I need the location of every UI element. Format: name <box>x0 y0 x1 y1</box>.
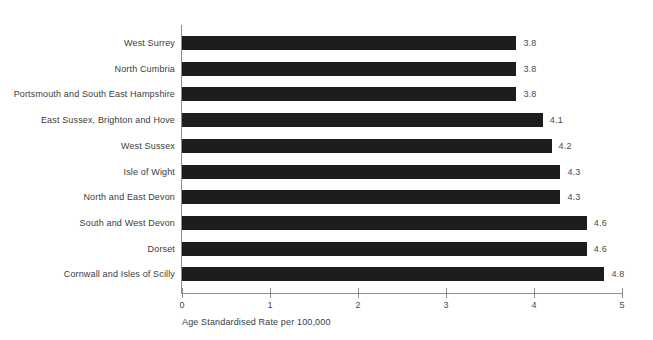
bar <box>182 242 587 256</box>
bar <box>182 216 587 230</box>
bar <box>182 165 560 179</box>
bar <box>182 190 560 204</box>
category-label: West Surrey <box>124 38 175 48</box>
bar-value-label: 3.8 <box>523 64 536 74</box>
x-axis-tick-label: 0 <box>179 300 184 310</box>
bar-value-label: 4.3 <box>567 167 580 177</box>
bar-value-label: 4.6 <box>594 244 607 254</box>
x-axis-title: Age Standardised Rate per 100,000 <box>182 317 331 327</box>
x-axis-tick <box>446 288 447 298</box>
chart-row: Isle of Wight4.3 <box>182 165 622 179</box>
bar <box>182 267 604 281</box>
chart-row: Portsmouth and South East Hampshire3.8 <box>182 87 622 101</box>
x-axis-tick <box>182 288 183 298</box>
bar <box>182 62 516 76</box>
category-label: North Cumbria <box>115 64 175 74</box>
chart-row: North and East Devon4.3 <box>182 190 622 204</box>
chart-row: North Cumbria3.8 <box>182 62 622 76</box>
x-axis-tick-label: 1 <box>267 300 272 310</box>
x-axis-line <box>182 293 623 294</box>
category-label: West Sussex <box>121 141 175 151</box>
x-axis-tick-label: 3 <box>443 300 448 310</box>
bar-chart: West Surrey3.8North Cumbria3.8Portsmouth… <box>0 0 653 340</box>
x-axis-tick-label: 5 <box>619 300 624 310</box>
bar-value-label: 4.8 <box>611 269 624 279</box>
bar <box>182 139 552 153</box>
category-label: Portsmouth and South East Hampshire <box>14 89 175 99</box>
bar <box>182 87 516 101</box>
chart-row: Cornwall and Isles of Scilly4.8 <box>182 267 622 281</box>
bar <box>182 113 543 127</box>
category-label: South and West Devon <box>80 218 175 228</box>
bar-value-label: 4.1 <box>550 115 563 125</box>
bar-value-label: 4.6 <box>594 218 607 228</box>
chart-row: East Sussex, Brighton and Hove4.1 <box>182 113 622 127</box>
x-axis-tick-label: 4 <box>531 300 536 310</box>
x-axis-tick <box>534 288 535 298</box>
x-axis-tick <box>270 288 271 298</box>
x-axis-tick-label: 2 <box>355 300 360 310</box>
chart-row: South and West Devon4.6 <box>182 216 622 230</box>
bar-value-label: 3.8 <box>523 89 536 99</box>
category-label: Dorset <box>148 244 175 254</box>
category-label: East Sussex, Brighton and Hove <box>41 115 175 125</box>
category-label: North and East Devon <box>83 192 175 202</box>
bar-value-label: 3.8 <box>523 38 536 48</box>
chart-row: Dorset4.6 <box>182 242 622 256</box>
bar <box>182 36 516 50</box>
x-axis-tick <box>358 288 359 298</box>
chart-row: West Surrey3.8 <box>182 36 622 50</box>
chart-row: West Sussex4.2 <box>182 139 622 153</box>
x-axis-tick <box>622 288 623 298</box>
category-label: Isle of Wight <box>124 167 175 177</box>
category-label: Cornwall and Isles of Scilly <box>64 269 175 279</box>
bar-value-label: 4.2 <box>559 141 572 151</box>
bar-value-label: 4.3 <box>567 192 580 202</box>
plot-area: West Surrey3.8North Cumbria3.8Portsmouth… <box>182 25 622 293</box>
